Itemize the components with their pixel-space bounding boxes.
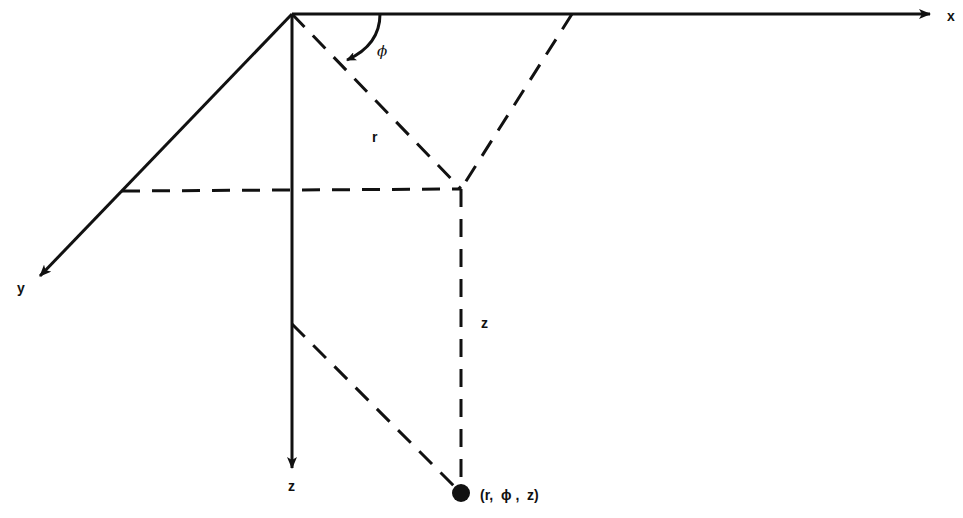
cylindrical-coordinates-diagram: x y z r ϕ z (r, ϕ , z): [0, 0, 963, 518]
projection-to-x-axis: [461, 14, 572, 189]
radius-line: [292, 14, 461, 189]
y-axis-label: y: [17, 280, 25, 296]
y-axis: [40, 14, 292, 276]
point-marker: [452, 484, 470, 502]
phi-angle-arc-icon: [347, 14, 380, 60]
x-axis-label: x: [947, 8, 955, 24]
point-label: (r, ϕ , z): [480, 487, 539, 503]
z-segment-label: z: [481, 315, 488, 331]
z-axis-label: z: [288, 478, 295, 494]
diagram-svg: x y z r ϕ z (r, ϕ , z): [0, 0, 963, 518]
r-label: r: [372, 129, 378, 145]
phi-label: ϕ: [377, 42, 387, 60]
projection-from-z-axis: [292, 324, 461, 493]
